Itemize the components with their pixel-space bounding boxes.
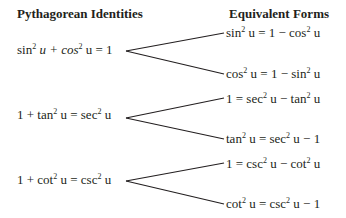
branch-line xyxy=(126,33,224,51)
branch-line xyxy=(126,118,224,139)
branch-line xyxy=(126,181,224,204)
branch-line xyxy=(126,98,224,118)
branch-line xyxy=(126,51,224,74)
branch-lines xyxy=(0,0,346,218)
branch-line xyxy=(126,163,224,181)
